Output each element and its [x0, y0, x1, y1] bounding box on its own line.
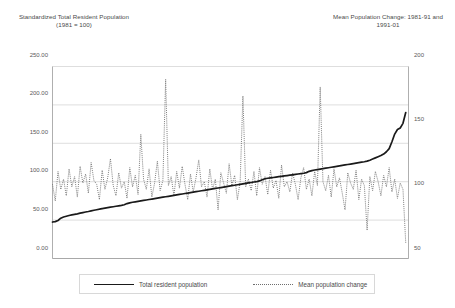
chart-legend: Total resident population Mean populatio…: [79, 274, 375, 294]
legend-solid-line-icon: [94, 284, 134, 285]
legend-item-mean-population-change: Mean population change: [253, 281, 367, 288]
plot-area: [0, 0, 455, 308]
chart-container: Standardized Total Resident Population (…: [0, 0, 455, 308]
series-mean-population-change: [53, 79, 406, 243]
series-total-resident-population: [53, 113, 406, 222]
legend-item-total-resident-population: Total resident population: [94, 281, 207, 288]
legend-label-total-resident-population: Total resident population: [139, 281, 207, 288]
legend-dotted-line-icon: [253, 284, 293, 285]
legend-label-mean-population-change: Mean population change: [298, 281, 367, 288]
